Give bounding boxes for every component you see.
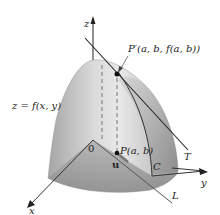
p-prime-label: P′(a, b, f(a, b)) xyxy=(127,43,200,54)
z-axis-label: z xyxy=(83,18,90,29)
surface xyxy=(48,60,178,193)
origin-label: 0 xyxy=(88,143,94,154)
p-label: P(a, b) xyxy=(119,145,153,156)
tangent-t-label: T xyxy=(184,151,192,162)
y-axis-arrow-icon xyxy=(199,168,208,175)
point-p xyxy=(115,151,120,156)
point-p-prime xyxy=(115,72,120,77)
x-axis-label: x xyxy=(29,205,35,215)
z-axis-arrow-icon xyxy=(91,16,96,24)
curve-c-label: C xyxy=(153,161,161,172)
y-axis-label: y xyxy=(200,177,207,188)
directional-derivative-diagram: z P′(a, b, f(a, b)) z = f(x, y) 0 P(a, b… xyxy=(0,0,220,215)
unit-vector-label: u xyxy=(112,159,119,170)
z-axis xyxy=(91,16,96,62)
surface-equation-label: z = f(x, y) xyxy=(11,100,61,111)
line-l-label: L xyxy=(171,190,179,201)
